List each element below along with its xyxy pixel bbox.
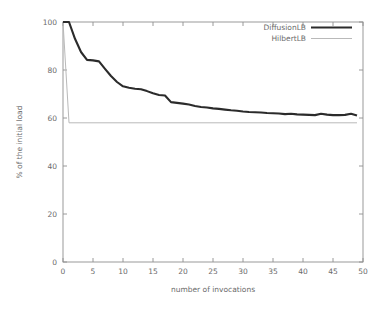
x-tick-label-45: 45 (328, 267, 338, 276)
x-tick-label-10: 10 (118, 267, 128, 276)
chart-legend: DiffusionLB HilbertLB (264, 23, 352, 43)
y-axis-ticks (63, 22, 363, 262)
legend-label-diffusionlb: DiffusionLB (264, 23, 306, 32)
x-tick-label-35: 35 (268, 267, 278, 276)
x-tick-label-5: 5 (91, 267, 96, 276)
chart-figure: 05101520253035404550 020406080100 number… (0, 0, 384, 310)
y-tick-label-80: 80 (47, 66, 57, 75)
x-axis-ticks (63, 22, 363, 262)
series-line-diffusionlb (63, 22, 357, 116)
y-tick-label-40: 40 (47, 162, 57, 171)
y-tick-label-20: 20 (47, 210, 57, 219)
y-axis-label: % of the initial load (15, 105, 24, 178)
y-tick-label-60: 60 (47, 114, 57, 123)
plot-frame (63, 22, 363, 262)
x-axis-label: number of invocations (171, 285, 255, 294)
y-axis-tick-labels: 020406080100 (43, 18, 58, 267)
legend-label-hilbertlb: HilbertLB (271, 34, 306, 43)
x-tick-label-50: 50 (358, 267, 368, 276)
x-tick-label-40: 40 (298, 267, 308, 276)
x-tick-label-25: 25 (208, 267, 218, 276)
y-tick-label-0: 0 (52, 258, 57, 267)
x-tick-label-20: 20 (178, 267, 188, 276)
x-tick-label-15: 15 (148, 267, 158, 276)
x-tick-label-30: 30 (238, 267, 248, 276)
y-tick-label-100: 100 (43, 18, 58, 27)
x-axis-tick-labels: 05101520253035404550 (61, 267, 368, 276)
x-tick-label-0: 0 (61, 267, 66, 276)
